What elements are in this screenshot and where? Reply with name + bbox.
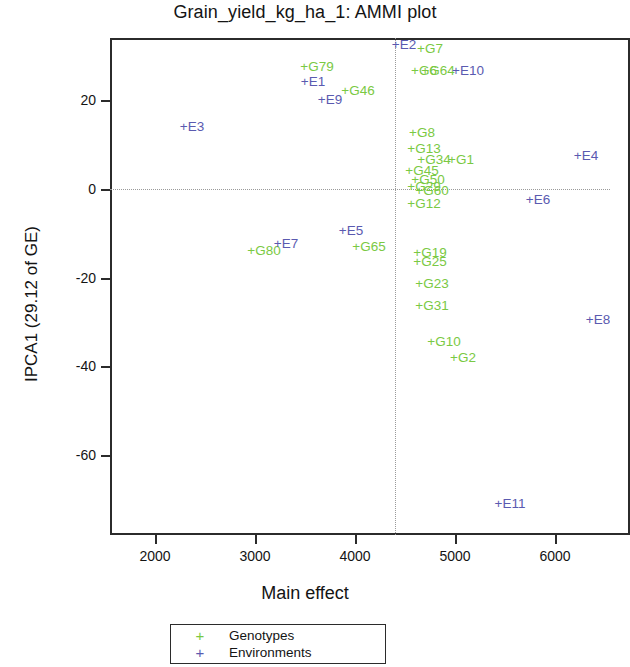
x-tick-label-6000: 6000 <box>515 548 595 564</box>
y-tick-label-20: 20 <box>58 92 96 108</box>
chart-title: Grain_yield_kg_ha_1: AMMI plot <box>0 2 610 23</box>
data-point-E3: +E3 <box>180 120 204 134</box>
legend-label: Genotypes <box>229 628 294 643</box>
horizontal-reference-line <box>110 189 610 190</box>
data-point-G31: +G31 <box>415 300 448 314</box>
data-point-G23: +G23 <box>415 278 448 292</box>
data-point-G2: +G2 <box>450 351 476 365</box>
legend-marker-icon: + <box>171 628 229 643</box>
vertical-reference-line <box>395 38 396 535</box>
x-tick-mark <box>355 535 357 544</box>
y-tick-label--20: -20 <box>58 270 96 286</box>
x-tick-label-4000: 4000 <box>315 548 395 564</box>
y-tick-label--40: -40 <box>58 358 96 374</box>
data-point-E6: +E6 <box>526 193 550 207</box>
data-point-G25: +G25 <box>413 255 446 269</box>
x-tick-label-5000: 5000 <box>415 548 495 564</box>
y-tick-mark <box>101 455 110 457</box>
x-tick-mark <box>555 535 557 544</box>
data-point-G64: +G64 <box>421 65 454 79</box>
data-point-E11: +E11 <box>495 497 526 511</box>
x-tick-label-2000: 2000 <box>115 548 195 564</box>
legend-item-genotypes: +Genotypes <box>171 627 385 644</box>
data-point-E2: +E2 <box>392 38 416 51</box>
y-axis-label: IPCA1 (29.12 of GE) <box>22 226 42 382</box>
legend-marker-icon: + <box>171 645 229 660</box>
data-point-E5: +E5 <box>339 224 363 238</box>
data-point-E10: +E10 <box>452 65 484 79</box>
data-point-E1: +E1 <box>301 76 325 90</box>
legend-label: Environments <box>229 645 312 660</box>
y-tick-mark <box>101 366 110 368</box>
data-point-E4: +E4 <box>574 149 598 163</box>
plot-area: +G79+G7+G6+G64+G46+G8+G13+G34+G1+G45+G50… <box>110 38 610 535</box>
x-tick-mark <box>155 535 157 544</box>
data-point-G8: +G8 <box>409 127 435 141</box>
x-tick-label-3000: 3000 <box>215 548 295 564</box>
y-tick-label-0: 0 <box>58 181 96 197</box>
data-point-G7: +G7 <box>417 42 443 56</box>
data-point-G12: +G12 <box>407 198 440 212</box>
legend-item-environments: +Environments <box>171 644 385 661</box>
y-tick-label--60: -60 <box>58 447 96 463</box>
data-point-G10: +G10 <box>427 335 460 349</box>
y-tick-mark <box>101 278 110 280</box>
y-tick-mark <box>101 100 110 102</box>
data-point-G79: +G79 <box>300 60 333 74</box>
x-axis-label: Main effect <box>0 583 610 604</box>
data-point-G1: +G1 <box>448 153 474 167</box>
y-tick-mark <box>101 189 110 191</box>
data-point-G46: +G46 <box>341 85 374 99</box>
data-point-E9: +E9 <box>318 93 342 107</box>
chart-legend: +Genotypes+Environments <box>170 624 386 664</box>
data-point-E8: +E8 <box>586 313 610 327</box>
data-point-G65: +G65 <box>352 240 385 254</box>
data-point-E7: +E7 <box>274 238 298 252</box>
x-tick-mark <box>455 535 457 544</box>
x-tick-mark <box>255 535 257 544</box>
